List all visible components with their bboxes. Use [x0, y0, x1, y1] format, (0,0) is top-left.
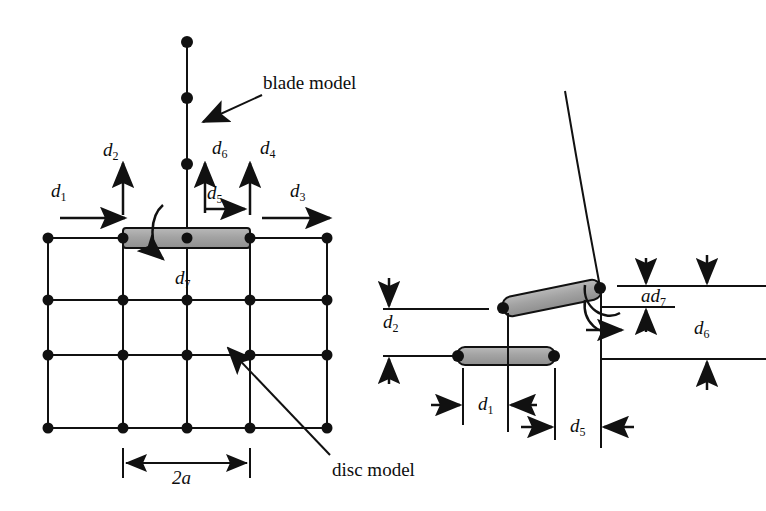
- label-d4-left: d4: [260, 138, 276, 157]
- label-d3-left: d3: [290, 181, 306, 200]
- blade-root-element-tilted: [501, 278, 603, 318]
- disc-model-pointer: [228, 348, 330, 455]
- label-d2-left: d2: [103, 140, 119, 159]
- label-d5-left: d5: [207, 183, 223, 202]
- label-2a: 2a: [172, 468, 191, 487]
- blade-model-pointer: [203, 95, 262, 122]
- label-d6-left: d6: [212, 138, 228, 157]
- label-d6-right: d6: [694, 318, 710, 337]
- blade-root-element-undeformed: [457, 347, 555, 365]
- label-d5-right: d5: [570, 416, 586, 435]
- blade-model-chain-right: [565, 91, 600, 287]
- label-blade-model: blade model: [263, 73, 356, 92]
- label-d1-right: d1: [478, 394, 494, 413]
- label-d1-left: d1: [51, 181, 67, 200]
- figure-canvas: d1 d2 d3 d4 d5 d6 d7 2a blade model disc…: [0, 0, 766, 511]
- label-disc-model: disc model: [332, 460, 415, 479]
- disc-grid-lines: [48, 238, 327, 428]
- label-d7-left: d7: [175, 268, 191, 287]
- diagram-svg: [0, 0, 766, 511]
- label-d2-right: d2: [383, 312, 399, 331]
- label-ad7-right: ad7: [641, 286, 666, 305]
